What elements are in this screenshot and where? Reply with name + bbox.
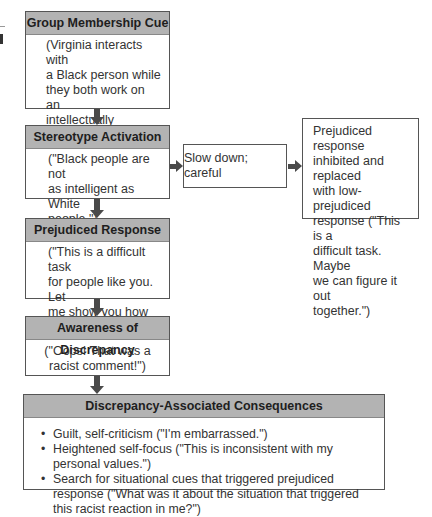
body-line: ("Black people are not	[48, 152, 161, 182]
consequence-list: Guilt, self-criticism ("I'm embarrassed.…	[41, 427, 378, 517]
body-line: Prejudiced response	[313, 124, 412, 154]
awareness-of-discrepancy-box: Awareness of Discrepancy ("Oops! That wa…	[25, 316, 170, 376]
consequence-item: Heightened self-focus ("This is inconsis…	[41, 442, 378, 472]
box-body: ("Oops! That was a racist comment!")	[26, 340, 169, 374]
stereotype-activation-box: Stereotype Activation ("Black people are…	[25, 125, 170, 199]
body-line: inhibited and replaced	[313, 154, 412, 184]
body-line: for people like you. Let	[48, 275, 161, 305]
slow-down-text: Slow down; careful	[184, 151, 286, 181]
body-line: (Virginia interacts with	[46, 38, 161, 68]
arrow-down-icon	[90, 109, 104, 125]
body-line: a Black person while	[46, 68, 161, 83]
body-line: response ("This is a	[313, 214, 412, 244]
slow-down-box: Slow down; careful	[183, 144, 287, 188]
arrow-right-icon	[170, 160, 183, 172]
low-prejudice-response-box: Prejudiced response inhibited and replac…	[302, 118, 419, 219]
box-title: Group Membership Cue	[26, 12, 169, 35]
body-line: with low-prejudiced	[313, 184, 412, 214]
body-line: we can figure it out	[313, 274, 412, 304]
box-title: Stereotype Activation	[26, 126, 169, 149]
body-line: ("Oops! That was a	[26, 344, 169, 359]
group-membership-cue-box: Group Membership Cue (Virginia interacts…	[25, 11, 170, 109]
cropped-edge-glyph	[0, 34, 3, 44]
box-title: Awareness of Discrepancy	[26, 317, 169, 340]
arrow-down-icon	[90, 376, 104, 394]
prejudiced-response-box: Prejudiced Response ("This is a difficul…	[25, 218, 170, 299]
arrow-down-icon	[90, 299, 104, 316]
arrow-right-icon	[288, 160, 302, 172]
discrepancy-consequences-box: Discrepancy-Associated Consequences Guil…	[23, 394, 385, 490]
cropped-edge-line	[0, 26, 5, 27]
box-title: Prejudiced Response	[26, 219, 169, 242]
body-line: ("This is a difficult task	[48, 245, 161, 275]
body-line: racist comment!")	[26, 359, 169, 374]
body-line: together.")	[313, 304, 412, 319]
box-body: Guilt, self-criticism ("I'm embarrassed.…	[24, 418, 384, 517]
body-line: difficult task. Maybe	[313, 244, 412, 274]
arrow-down-icon	[90, 199, 104, 218]
box-title: Discrepancy-Associated Consequences	[24, 395, 384, 418]
consequence-item: Search for situational cues that trigger…	[41, 472, 378, 517]
consequence-item: Guilt, self-criticism ("I'm embarrassed.…	[41, 427, 378, 442]
body-line: as intelligent as White	[48, 182, 161, 212]
